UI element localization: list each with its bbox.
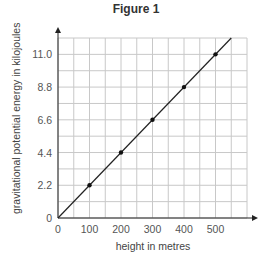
- data-point: [87, 183, 91, 187]
- x-tick-label: 200: [112, 223, 130, 235]
- line-chart: 010020030040050002.24.46.68.811.0: [0, 0, 272, 258]
- x-tick-label: 300: [144, 223, 162, 235]
- x-tick-label: 400: [175, 223, 193, 235]
- y-tick-label: 6.6: [37, 114, 52, 126]
- y-tick-label: 2.2: [37, 179, 52, 191]
- x-axis-arrow-icon: [252, 215, 258, 221]
- x-tick-label: 100: [81, 223, 99, 235]
- y-axis-label: gravitational potential energy in kilojo…: [10, 34, 22, 214]
- y-tick-label: 11.0: [32, 48, 52, 60]
- data-point: [119, 150, 123, 154]
- y-axis-arrow-icon: [55, 27, 61, 33]
- y-tick-label: 0: [46, 212, 52, 224]
- x-tick-label: 0: [55, 223, 61, 235]
- best-fit-line: [58, 38, 231, 218]
- y-tick-label: 8.8: [37, 81, 52, 93]
- data-point: [213, 52, 217, 56]
- data-point: [150, 118, 154, 122]
- x-axis-label: height in metres: [58, 240, 248, 252]
- x-tick-label: 500: [207, 223, 225, 235]
- data-point: [182, 85, 186, 89]
- y-tick-label: 4.4: [37, 147, 52, 159]
